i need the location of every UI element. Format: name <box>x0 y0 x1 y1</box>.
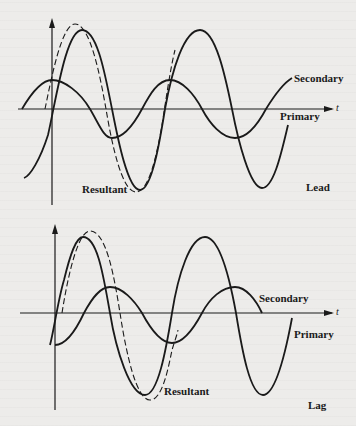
lead-secondary-curve <box>22 78 292 138</box>
lag-panel <box>20 224 334 410</box>
lag-amplitude-arrow-icon <box>52 224 58 234</box>
lead-time-arrow-icon <box>324 106 334 112</box>
lag-primary-curve <box>50 237 292 395</box>
lag-secondary-curve <box>55 287 262 345</box>
lag-resultant-curve <box>62 231 178 400</box>
lag-panel-title: Lag <box>308 400 326 411</box>
lead-time-axis-label: t <box>336 103 339 113</box>
lag-primary-label: Primary <box>294 329 334 340</box>
lead-primary-label: Primary <box>280 111 320 122</box>
lag-time-axis-label: t <box>336 307 339 317</box>
lead-panel-title: Lead <box>306 182 330 193</box>
lead-primary-curve <box>24 30 288 190</box>
lead-resultant-label: Resultant <box>82 184 127 195</box>
lag-time-arrow-icon <box>324 310 334 316</box>
waveform-diagram <box>0 0 356 426</box>
lead-amplitude-arrow-icon <box>49 18 55 28</box>
lag-resultant-label: Resultant <box>164 386 209 397</box>
lead-secondary-label: Secondary <box>294 73 344 84</box>
lag-secondary-label: Secondary <box>259 293 309 304</box>
lead-resultant-curve <box>45 24 175 192</box>
